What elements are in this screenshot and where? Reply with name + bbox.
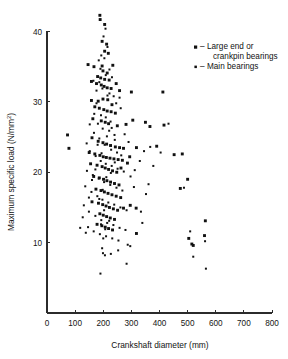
data-point	[104, 167, 107, 170]
data-point	[189, 230, 191, 232]
data-point	[106, 135, 108, 137]
data-point	[98, 81, 100, 83]
y-tick-label: 30	[33, 98, 43, 107]
data-point	[109, 184, 111, 186]
data-point	[86, 170, 88, 172]
data-point	[98, 59, 100, 61]
data-point	[90, 99, 93, 102]
data-point	[112, 224, 114, 226]
data-point	[101, 203, 104, 206]
data-point	[187, 237, 190, 240]
y-axis-title-tail: )	[6, 113, 16, 116]
data-point	[186, 178, 189, 181]
data-point	[101, 88, 103, 90]
data-point	[203, 234, 206, 237]
data-point	[87, 226, 89, 228]
y-axis-title-base: Maximum specific load (N/mm	[6, 119, 16, 231]
x-tick-label: 600	[209, 319, 223, 328]
data-point	[152, 165, 154, 167]
data-point	[104, 254, 106, 256]
data-point	[112, 157, 115, 160]
y-tick-label: 20	[33, 168, 43, 177]
data-point	[93, 153, 96, 156]
data-point	[107, 227, 110, 230]
data-point	[102, 155, 105, 158]
data-point	[105, 205, 108, 208]
data-point	[126, 209, 128, 211]
data-point	[108, 92, 110, 94]
data-point	[104, 121, 107, 124]
data-point	[111, 229, 114, 232]
data-point	[135, 146, 138, 149]
data-point	[145, 193, 147, 195]
data-point	[149, 146, 151, 148]
data-point	[89, 162, 92, 165]
data-point	[109, 144, 112, 147]
data-point	[113, 182, 116, 185]
data-point	[134, 169, 136, 171]
data-point	[107, 192, 110, 195]
data-point	[103, 191, 106, 194]
data-point	[111, 169, 114, 172]
data-point	[102, 214, 105, 217]
data-point	[110, 253, 112, 255]
data-point	[86, 142, 88, 144]
data-point	[120, 154, 122, 156]
data-point	[120, 167, 123, 170]
data-point	[91, 136, 94, 139]
legend-label-main-bearings: Main bearings	[207, 62, 258, 71]
data-point	[114, 112, 117, 115]
y-tick-label: 40	[33, 28, 43, 37]
y-tick-label: 10	[33, 239, 43, 248]
data-point	[88, 197, 90, 199]
data-point	[105, 215, 108, 218]
data-point	[100, 223, 102, 225]
data-point	[96, 102, 98, 104]
data-point	[94, 188, 97, 191]
data-point	[130, 175, 132, 177]
data-point	[98, 14, 101, 17]
data-point	[105, 235, 107, 237]
data-point	[135, 232, 138, 235]
data-point	[148, 183, 150, 185]
data-point	[97, 100, 100, 103]
legend-marker-large-end	[194, 46, 197, 49]
data-point	[102, 69, 105, 72]
data-point	[89, 150, 91, 152]
data-point	[123, 171, 125, 173]
data-point	[97, 202, 100, 205]
data-point	[128, 155, 131, 158]
data-point	[83, 204, 85, 206]
data-point	[111, 193, 114, 196]
data-point	[93, 113, 95, 115]
data-point	[93, 65, 96, 68]
data-point	[126, 162, 129, 165]
data-point	[117, 168, 119, 170]
data-point	[122, 147, 125, 150]
data-point	[99, 18, 102, 21]
data-point	[84, 185, 86, 187]
chart-legend: – Large end or crankpin bearings Large e…	[194, 42, 278, 71]
legend-dash-large-end: –	[200, 42, 205, 51]
data-point	[98, 107, 101, 110]
data-point	[116, 124, 119, 127]
data-point	[103, 57, 105, 59]
data-point	[133, 186, 135, 188]
data-point	[204, 219, 207, 222]
data-point	[109, 181, 112, 184]
data-point	[115, 171, 118, 174]
data-point	[107, 52, 110, 55]
data-point	[98, 137, 100, 139]
data-point	[141, 222, 143, 224]
data-point	[163, 124, 166, 127]
data-point	[117, 240, 119, 242]
series-large-end-points	[66, 14, 207, 247]
data-point	[99, 77, 102, 80]
data-point	[96, 90, 98, 92]
data-point	[91, 200, 94, 203]
data-point	[113, 95, 115, 97]
data-point	[106, 98, 109, 101]
data-point	[114, 161, 116, 163]
data-point	[96, 164, 99, 167]
data-point	[111, 127, 113, 129]
